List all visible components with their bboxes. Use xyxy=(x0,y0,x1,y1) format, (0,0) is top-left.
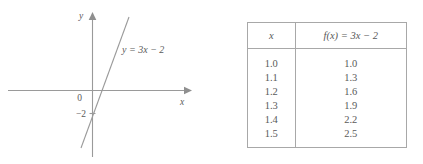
y-axis-arrow-icon xyxy=(89,12,97,20)
equation-annotation: y = 3x − 2 xyxy=(121,44,164,55)
y-axis-label: y xyxy=(78,11,84,21)
cell-x: 1.1 xyxy=(248,70,295,84)
cell-x: 1.4 xyxy=(248,112,295,126)
table-row: 1.0 1.0 xyxy=(248,49,406,71)
cell-x: 1.3 xyxy=(248,98,295,112)
linear-function-graph: x y 0 −2 y = 3x − 2 xyxy=(0,0,215,164)
table-row: 1.2 1.6 xyxy=(248,84,406,98)
x-axis-label: x xyxy=(179,97,185,107)
cell-fx: 1.9 xyxy=(295,98,406,112)
function-line xyxy=(81,17,129,148)
origin-label: 0 xyxy=(77,93,82,103)
cell-fx: 1.0 xyxy=(295,49,406,71)
table-row: 1.5 2.5 xyxy=(248,126,406,148)
column-header-fx: f(x) = 3x − 2 xyxy=(295,23,406,49)
cell-fx: 2.5 xyxy=(295,126,406,148)
table-row: 1.4 2.2 xyxy=(248,112,406,126)
cell-x: 1.2 xyxy=(248,84,295,98)
cell-fx: 1.3 xyxy=(295,70,406,84)
cell-x: 1.5 xyxy=(248,126,295,148)
table-row: 1.3 1.9 xyxy=(248,98,406,112)
column-header-x: x xyxy=(248,23,295,49)
x-axis-arrow-icon xyxy=(184,87,192,95)
table-row: 1.1 1.3 xyxy=(248,70,406,84)
y-intercept-label: −2 xyxy=(76,109,86,119)
cell-fx: 2.2 xyxy=(295,112,406,126)
cell-fx: 1.6 xyxy=(295,84,406,98)
graph-canvas: x y 0 −2 y = 3x − 2 xyxy=(0,0,215,164)
table-header-row: x f(x) = 3x − 2 xyxy=(248,23,406,49)
values-table-element: x f(x) = 3x − 2 1.0 1.0 1.1 1.3 1.2 1.6 … xyxy=(248,23,406,148)
table-head: x f(x) = 3x − 2 xyxy=(248,23,406,49)
cell-x: 1.0 xyxy=(248,49,295,71)
function-values-table: x f(x) = 3x − 2 1.0 1.0 1.1 1.3 1.2 1.6 … xyxy=(247,22,407,148)
table-body: 1.0 1.0 1.1 1.3 1.2 1.6 1.3 1.9 1.4 2.2 … xyxy=(248,49,406,149)
